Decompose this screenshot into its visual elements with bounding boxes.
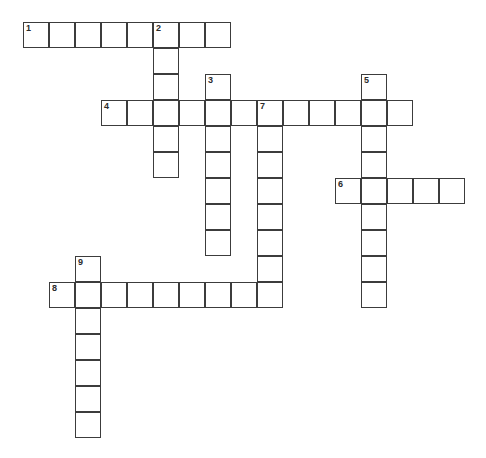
crossword-cell[interactable] — [231, 100, 257, 126]
clue-number: 8 — [52, 283, 57, 294]
crossword-cell[interactable] — [387, 100, 413, 126]
crossword-cell[interactable] — [75, 412, 101, 438]
crossword-cell[interactable] — [361, 126, 387, 152]
crossword-cell[interactable] — [205, 230, 231, 256]
crossword-cell[interactable] — [361, 178, 387, 204]
crossword-cell[interactable] — [205, 204, 231, 230]
crossword-cell[interactable] — [361, 256, 387, 282]
crossword-cell[interactable] — [153, 152, 179, 178]
clue-number: 6 — [338, 179, 343, 190]
crossword-cell[interactable] — [153, 126, 179, 152]
crossword-cell[interactable] — [413, 178, 439, 204]
crossword-cell[interactable] — [257, 256, 283, 282]
crossword-cell[interactable]: 7 — [257, 100, 283, 126]
crossword-cell[interactable]: 3 — [205, 74, 231, 100]
crossword-cell[interactable] — [231, 282, 257, 308]
crossword-cell[interactable] — [205, 22, 231, 48]
clue-number: 7 — [260, 101, 265, 112]
crossword-cell[interactable] — [257, 178, 283, 204]
crossword-cell[interactable] — [127, 282, 153, 308]
crossword-cell[interactable] — [361, 230, 387, 256]
crossword-cell[interactable] — [153, 48, 179, 74]
clue-number: 5 — [364, 75, 369, 86]
crossword-grid: 123547698 — [0, 0, 486, 458]
crossword-cell[interactable] — [257, 152, 283, 178]
crossword-cell[interactable] — [361, 100, 387, 126]
crossword-cell[interactable] — [101, 22, 127, 48]
crossword-cell[interactable]: 9 — [75, 256, 101, 282]
crossword-cell[interactable] — [335, 100, 361, 126]
crossword-cell[interactable] — [361, 282, 387, 308]
clue-number: 9 — [78, 257, 83, 268]
clue-number: 1 — [26, 23, 31, 34]
crossword-cell[interactable] — [153, 74, 179, 100]
crossword-cell[interactable] — [205, 126, 231, 152]
crossword-cell[interactable]: 8 — [49, 282, 75, 308]
crossword-cell[interactable] — [257, 204, 283, 230]
crossword-cell[interactable] — [127, 100, 153, 126]
crossword-cell[interactable]: 4 — [101, 100, 127, 126]
crossword-cell[interactable] — [179, 100, 205, 126]
crossword-cell[interactable] — [75, 282, 101, 308]
crossword-cell[interactable] — [101, 282, 127, 308]
crossword-cell[interactable] — [205, 282, 231, 308]
crossword-cell[interactable] — [153, 282, 179, 308]
crossword-cell[interactable] — [257, 282, 283, 308]
crossword-cell[interactable] — [75, 308, 101, 334]
crossword-cell[interactable] — [205, 100, 231, 126]
crossword-cell[interactable] — [179, 22, 205, 48]
clue-number: 2 — [156, 23, 161, 34]
crossword-cell[interactable] — [179, 282, 205, 308]
crossword-cell[interactable] — [49, 22, 75, 48]
crossword-cell[interactable] — [127, 22, 153, 48]
clue-number: 4 — [104, 101, 109, 112]
crossword-cell[interactable] — [361, 204, 387, 230]
crossword-cell[interactable] — [257, 230, 283, 256]
crossword-cell[interactable] — [361, 152, 387, 178]
clue-number: 3 — [208, 75, 213, 86]
crossword-cell[interactable] — [257, 126, 283, 152]
crossword-cell[interactable] — [283, 100, 309, 126]
crossword-cell[interactable] — [153, 100, 179, 126]
crossword-cell[interactable] — [205, 178, 231, 204]
crossword-cell[interactable]: 1 — [23, 22, 49, 48]
crossword-cell[interactable] — [387, 178, 413, 204]
crossword-cell[interactable]: 6 — [335, 178, 361, 204]
crossword-cell[interactable] — [439, 178, 465, 204]
crossword-cell[interactable] — [309, 100, 335, 126]
crossword-cell[interactable] — [75, 386, 101, 412]
crossword-cell[interactable]: 5 — [361, 74, 387, 100]
crossword-cell[interactable] — [75, 360, 101, 386]
crossword-cell[interactable] — [75, 334, 101, 360]
crossword-cell[interactable]: 2 — [153, 22, 179, 48]
crossword-cell[interactable] — [205, 152, 231, 178]
crossword-cell[interactable] — [75, 22, 101, 48]
